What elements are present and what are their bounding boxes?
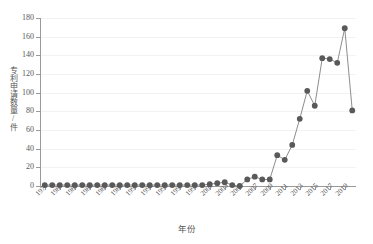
data-point-marker xyxy=(102,182,108,188)
data-point-marker xyxy=(289,142,295,148)
data-point-marker xyxy=(349,108,355,114)
data-point-marker xyxy=(297,116,303,122)
data-point-marker xyxy=(64,182,70,188)
data-point-marker xyxy=(57,182,63,188)
data-point-marker xyxy=(237,183,243,189)
data-point-marker xyxy=(199,182,205,188)
data-point-marker xyxy=(184,182,190,188)
data-point-marker xyxy=(49,182,55,188)
data-point-marker xyxy=(252,174,258,180)
data-point-marker xyxy=(154,182,160,188)
data-point-marker xyxy=(319,55,325,61)
data-point-marker xyxy=(79,182,85,188)
data-point-marker xyxy=(334,60,340,66)
data-point-marker xyxy=(42,182,48,188)
data-point-marker xyxy=(327,56,333,62)
data-point-marker xyxy=(304,88,310,94)
data-point-marker xyxy=(87,182,93,188)
data-point-marker xyxy=(139,182,145,188)
data-point-marker xyxy=(229,182,235,188)
patent-application-line-chart: 专利申请数量/件 020406080100120140160180 197919… xyxy=(0,0,373,244)
data-point-marker xyxy=(312,103,318,109)
data-point-marker xyxy=(169,182,175,188)
series-polyline xyxy=(45,28,353,186)
data-point-marker xyxy=(192,182,198,188)
data-point-marker xyxy=(124,182,130,188)
data-point-marker xyxy=(342,25,348,31)
data-point-marker xyxy=(72,182,78,188)
data-point-marker xyxy=(244,177,250,183)
data-point-marker xyxy=(117,182,123,188)
data-point-marker xyxy=(267,177,273,183)
data-point-marker xyxy=(274,152,280,158)
data-point-marker xyxy=(214,180,220,186)
data-point-marker xyxy=(177,182,183,188)
data-point-marker xyxy=(282,157,288,163)
data-series-line xyxy=(0,0,373,244)
data-point-marker xyxy=(94,182,100,188)
x-axis-title: 年份 xyxy=(0,222,373,234)
data-point-marker xyxy=(207,181,213,187)
data-point-marker xyxy=(109,182,115,188)
data-point-marker xyxy=(162,182,168,188)
data-point-marker xyxy=(132,182,138,188)
data-point-marker xyxy=(259,177,265,183)
data-point-marker xyxy=(222,179,228,185)
data-point-marker xyxy=(147,182,153,188)
